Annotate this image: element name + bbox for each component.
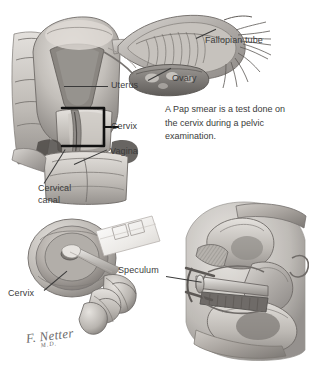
leader-vagina (74, 149, 107, 165)
label-cervical-canal-line1: Cervical (38, 183, 71, 194)
medical-illustration-figure: Fallopian tube Ovary Uterus Cervix Vagin… (0, 0, 309, 365)
leader-speculum (166, 276, 202, 283)
label-cervical-canal-line2: canal (38, 195, 60, 206)
leader-cervix-lower (44, 271, 68, 291)
pap-smear-note: A Pap smear is a test done on the cervix… (165, 103, 297, 144)
leader-uterus (64, 86, 108, 87)
label-ovary: Ovary (172, 73, 197, 84)
label-uterus: Uterus (111, 80, 138, 91)
label-cervix-lower: Cervix (8, 288, 34, 299)
leader-cervical-canal (44, 149, 66, 183)
panel-sagittal-pelvis (186, 202, 308, 361)
label-cervix: Cervix (111, 121, 137, 132)
artist-signature: F. Netter M.D. (25, 325, 75, 350)
label-fallopian-tube: Fallopian tube (205, 35, 263, 46)
fimbriae (223, 22, 271, 88)
leader-ovary (148, 68, 171, 81)
label-speculum: Speculum (118, 265, 159, 276)
label-vagina: Vagina (110, 146, 138, 157)
speculum-instrument (186, 266, 268, 313)
